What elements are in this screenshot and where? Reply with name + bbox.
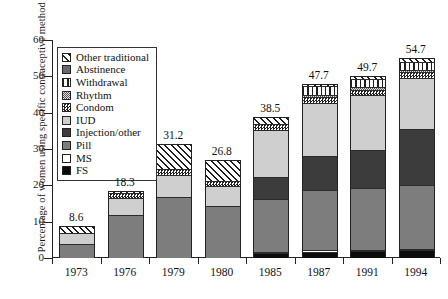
legend-swatch-fs-icon	[62, 166, 71, 175]
bar-value-label: 8.6	[48, 211, 104, 223]
x-axis-tick-mark	[149, 258, 150, 264]
y-axis-tick-mark	[44, 76, 52, 77]
bar-segment-pill	[400, 186, 434, 250]
y-axis-tick-label: 30	[14, 142, 44, 154]
legend-item-pill[interactable]: Pill	[62, 139, 149, 152]
bar-segment-fs	[351, 252, 385, 258]
bar-segment-pill	[109, 216, 143, 258]
y-axis-tick-label: 50	[14, 69, 44, 81]
legend-swatch-rhythm-icon	[62, 91, 71, 100]
bar-stack	[59, 226, 95, 257]
bar-segment-inj	[400, 130, 434, 186]
bar-stack	[108, 191, 144, 257]
x-axis-tick-mark	[295, 258, 296, 264]
y-axis-tick-mark	[44, 113, 52, 114]
bar-stack	[399, 58, 435, 257]
bar-segment-pill	[254, 200, 288, 253]
bar-stack	[205, 160, 241, 257]
chart-legend: Other traditionalAbstinenceWithdrawalRhy…	[57, 47, 157, 181]
legend-label: Injection/other	[76, 127, 141, 138]
bar-segment-inj	[351, 151, 385, 189]
bar-segment-inj	[303, 157, 337, 192]
bar-stack	[253, 117, 289, 257]
bar-segment-fs	[303, 253, 337, 258]
bar-segment-iud	[254, 131, 288, 178]
legend-label: Rhythm	[76, 90, 111, 101]
x-axis-tick-mark	[198, 258, 199, 264]
bar-segment-pill	[351, 189, 385, 251]
bar-segment-iud	[303, 104, 337, 157]
legend-swatch-ms-icon	[62, 154, 71, 163]
bar-value-label: 54.7	[388, 43, 444, 55]
x-axis-tick-mark	[440, 258, 441, 264]
legend-swatch-condom-icon	[62, 103, 71, 112]
bar-segment-inj	[254, 178, 288, 200]
y-axis-tick-mark	[44, 40, 52, 41]
x-axis-tick-label: 1994	[388, 266, 444, 278]
y-axis-tick-label: 40	[14, 106, 44, 118]
bar-segment-other	[254, 118, 288, 125]
legend-item-abst[interactable]: Abstinence	[62, 64, 149, 77]
legend-swatch-other-icon	[62, 53, 71, 62]
legend-swatch-inj-icon	[62, 128, 71, 137]
bar-segment-fs	[400, 251, 434, 258]
legend-swatch-pill-icon	[62, 141, 71, 150]
y-axis-tick-label: 0	[14, 251, 44, 263]
bar-value-label: 38.5	[242, 102, 298, 114]
bar-stack	[350, 76, 386, 257]
y-axis-tick-mark	[44, 149, 52, 150]
legend-label: FS	[76, 165, 88, 176]
bar-segment-withdraw	[303, 87, 337, 95]
bar-segment-withdraw	[351, 80, 385, 88]
bar-segment-pill	[303, 191, 337, 251]
legend-swatch-iud-icon	[62, 116, 71, 125]
legend-item-condom[interactable]: Condom	[62, 101, 149, 114]
bar-segment-pill	[206, 207, 240, 258]
bar-segment-fs	[254, 254, 288, 258]
bar-value-label: 49.7	[339, 61, 395, 73]
bar-value-label: 31.2	[145, 129, 201, 141]
y-axis-tick-label: 10	[14, 215, 44, 227]
bar-stack	[156, 144, 192, 257]
legend-swatch-abst-icon	[62, 65, 71, 74]
y-axis-tick-mark	[44, 258, 52, 259]
bar-segment-iud	[206, 187, 240, 207]
legend-item-inj[interactable]: Injection/other	[62, 127, 149, 140]
legend-label: IUD	[76, 115, 96, 126]
y-axis-tick-label: 20	[14, 178, 44, 190]
x-axis-tick-mark	[101, 258, 102, 264]
legend-label: Withdrawal	[76, 77, 127, 88]
legend-item-other[interactable]: Other traditional	[62, 51, 149, 64]
legend-item-withdraw[interactable]: Withdrawal	[62, 76, 149, 89]
bar-stack	[302, 84, 338, 257]
legend-label: Condom	[76, 102, 114, 113]
bar-segment-iud	[109, 199, 143, 216]
x-axis-tick-mark	[246, 258, 247, 264]
x-axis-tick-mark	[392, 258, 393, 264]
legend-label: Pill	[76, 140, 91, 151]
bar-segment-pill	[157, 198, 191, 258]
y-axis-tick-label: 60	[14, 33, 44, 45]
legend-label: MS	[76, 153, 92, 164]
x-axis-tick-mark	[343, 258, 344, 264]
legend-label: Other traditional	[76, 52, 149, 63]
bar-segment-other	[157, 145, 191, 171]
bar-segment-other	[206, 161, 240, 182]
bar-segment-iud	[400, 79, 434, 130]
x-axis-tick-mark	[52, 258, 53, 264]
stacked-bar-chart: Percentage of women using specific contr…	[0, 0, 448, 299]
legend-item-ms[interactable]: MS	[62, 152, 149, 165]
bar-segment-pill	[60, 245, 94, 258]
legend-label: Abstinence	[76, 64, 125, 75]
bar-segment-iud	[60, 234, 94, 245]
bar-value-label: 26.8	[194, 145, 250, 157]
y-axis-tick-mark	[44, 185, 52, 186]
legend-item-iud[interactable]: IUD	[62, 114, 149, 127]
legend-item-rhythm[interactable]: Rhythm	[62, 89, 149, 102]
bar-segment-other	[60, 227, 94, 234]
bar-value-label: 18.3	[97, 176, 153, 188]
bar-segment-withdraw	[400, 63, 434, 72]
bar-segment-iud	[157, 176, 191, 199]
bar-segment-iud	[351, 96, 385, 151]
legend-swatch-withdraw-icon	[62, 78, 71, 87]
